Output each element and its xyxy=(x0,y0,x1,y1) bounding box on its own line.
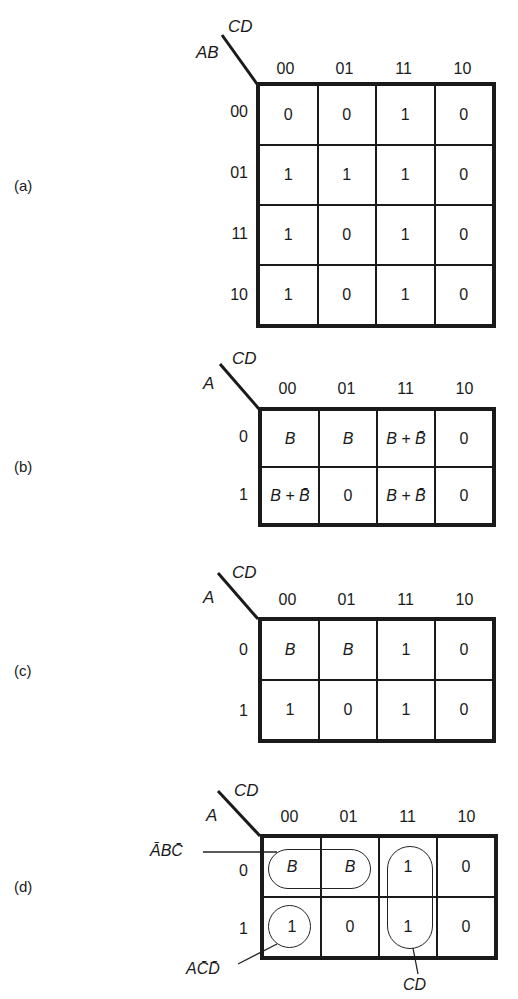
group-loop-abar-b-cbar xyxy=(268,849,371,889)
group-term-label: AC̄D̄ xyxy=(186,960,220,978)
kmap-cell: 0 xyxy=(435,620,493,680)
row-header: 10 xyxy=(218,286,248,304)
kmap-cell: 1 xyxy=(376,265,435,325)
row-header: 01 xyxy=(218,164,248,182)
kmap-cell: B xyxy=(319,620,377,680)
part-label: (a) xyxy=(14,177,32,194)
kmap-cell: 0 xyxy=(318,85,377,145)
row-header: 0 xyxy=(218,641,248,659)
row-var-label: A xyxy=(203,374,214,394)
row-header: 11 xyxy=(218,225,248,243)
col-var-label: CD xyxy=(234,781,259,801)
kmap-cell: 1 xyxy=(376,85,435,145)
kmap-cell: 0 xyxy=(318,205,377,265)
kmap-cell: 0 xyxy=(437,837,495,897)
col-header: 10 xyxy=(437,808,496,826)
kmap-cell: 1 xyxy=(259,265,318,325)
row-var-label: A xyxy=(203,588,214,608)
col-header: 00 xyxy=(258,591,317,609)
col-header: 11 xyxy=(378,808,437,826)
part-label: (d) xyxy=(14,878,32,895)
col-header: 00 xyxy=(260,808,319,826)
row-header: 0 xyxy=(218,428,248,446)
kmap-cell: 1 xyxy=(318,145,377,205)
kmap-cell: 0 xyxy=(437,897,495,957)
group-term-label: CD xyxy=(403,976,426,994)
kmap-cell: 1 xyxy=(259,205,318,265)
kmap-cell: 0 xyxy=(259,85,318,145)
kmap-cell: 1 xyxy=(377,620,435,680)
kmap-cell: 0 xyxy=(319,467,377,524)
kmap-cell: 1 xyxy=(377,680,435,740)
col-header: 01 xyxy=(317,380,376,398)
row-var-label: A xyxy=(206,806,217,826)
kmap-cell: 0 xyxy=(435,410,493,467)
kmap-cell: 0 xyxy=(435,680,493,740)
row-var-label: AB xyxy=(196,43,219,63)
kmap-cell: 0 xyxy=(435,265,494,325)
kmap-grid: B B 1 0 1 0 1 0 xyxy=(258,617,496,743)
kmap-cell: 0 xyxy=(319,680,377,740)
kmap-cell: B xyxy=(319,410,377,467)
col-var-label: CD xyxy=(232,563,257,583)
col-header: 01 xyxy=(317,591,376,609)
col-header: 01 xyxy=(319,808,378,826)
part-label: (c) xyxy=(14,662,32,679)
row-header: 1 xyxy=(218,920,248,938)
kmap-cell: B xyxy=(261,620,319,680)
kmap-cell: 1 xyxy=(259,145,318,205)
row-header: 00 xyxy=(218,103,248,121)
group-loop-a-cbar-dbar xyxy=(268,905,311,948)
kmap-cell: 0 xyxy=(318,265,377,325)
col-header: 10 xyxy=(433,60,492,78)
row-header: 1 xyxy=(218,486,248,504)
row-header: 1 xyxy=(218,702,248,720)
col-header: 11 xyxy=(376,380,435,398)
kmap-cell: 0 xyxy=(435,85,494,145)
kmap-cell: 0 xyxy=(435,467,493,524)
col-var-label: CD xyxy=(232,349,257,369)
row-header: 0 xyxy=(218,862,248,880)
kmap-cell: 1 xyxy=(376,145,435,205)
kmap-cell: 1 xyxy=(261,680,319,740)
kmap-grid: B B B + B̄ 0 B + B̄ 0 B + B̄ 0 xyxy=(258,407,496,527)
col-header: 00 xyxy=(256,60,315,78)
col-header: 11 xyxy=(376,591,435,609)
kmap-cell: B xyxy=(261,410,319,467)
group-loop-cd xyxy=(387,846,433,949)
col-header: 10 xyxy=(435,591,494,609)
col-var-label: CD xyxy=(228,17,253,37)
kmap-cell: 1 xyxy=(376,205,435,265)
col-header: 01 xyxy=(315,60,374,78)
col-header: 00 xyxy=(258,380,317,398)
kmap-cell: B + B̄ xyxy=(377,467,435,524)
kmap-grid: 0 0 1 0 1 1 1 0 1 0 1 0 1 0 1 0 xyxy=(256,82,496,328)
kmap-cell: 0 xyxy=(435,205,494,265)
group-term-label: ĀBC̄ xyxy=(150,842,183,860)
kmap-cell: B + B̄ xyxy=(261,467,319,524)
col-header: 11 xyxy=(374,60,433,78)
kmap-cell: 0 xyxy=(321,897,379,957)
col-header: 10 xyxy=(435,380,494,398)
kmap-cell: 0 xyxy=(435,145,494,205)
kmap-cell: B + B̄ xyxy=(377,410,435,467)
part-label: (b) xyxy=(14,458,32,475)
